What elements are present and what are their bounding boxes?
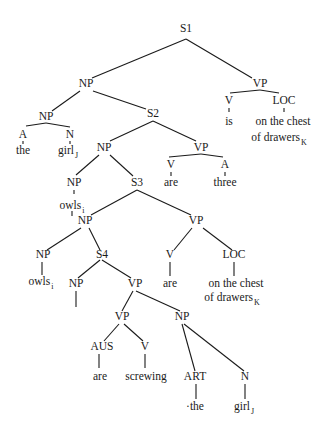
- tree-node-a2: A: [221, 158, 230, 170]
- edge-vp-loc: [260, 90, 279, 93]
- edge-vp2-v: [169, 154, 201, 157]
- tree-node-n1: N: [66, 128, 75, 140]
- tree-node-vp2: VP: [194, 141, 209, 153]
- tree-node-v2: V: [167, 158, 176, 170]
- tree-node-np5: NP: [78, 214, 93, 226]
- edge-s2-vp: [153, 121, 196, 141]
- tree-node-s4: S4: [96, 248, 108, 260]
- tree-node-loc1: LOC: [273, 94, 296, 106]
- tree-node-np2: NP: [39, 110, 54, 122]
- edge-vp-v-lo: [230, 90, 260, 93]
- tree-node-n2: N: [241, 370, 250, 382]
- tree-node-a2w: three: [214, 176, 237, 188]
- edge-vp5-aus: [104, 324, 119, 341]
- edge-np3-s3: [110, 155, 133, 176]
- tree-node-ausw: are: [93, 370, 107, 382]
- edge-vp4-np: [136, 291, 180, 311]
- edge-np2-n: [46, 123, 70, 127]
- syntax-tree-diagram: S1NPVPNPS2AtheNgirlJVisLOCon the chestof…: [0, 0, 334, 443]
- tree-node-loc2w1: on the chest: [209, 277, 265, 289]
- tree-node-vp4: VP: [128, 277, 143, 289]
- edge-s3-vp: [137, 190, 191, 215]
- edge-s4-vp: [102, 260, 131, 278]
- edge-np-np: [52, 91, 80, 111]
- tree-node-v4: V: [141, 340, 150, 352]
- tree-node-np8: NP: [175, 310, 190, 322]
- tree-node-np1: NP: [79, 77, 94, 89]
- tree-node-v4w: screwing: [125, 370, 167, 383]
- edge-vp3-v: [174, 228, 192, 250]
- tree-node-np6w: owlsi: [29, 275, 55, 291]
- tree-node-a1w: the: [16, 144, 30, 156]
- edge-s4-np: [78, 260, 100, 278]
- edge-np-s2: [93, 91, 146, 109]
- edge-s3-np: [91, 190, 137, 215]
- edge-s1-vp: [186, 39, 252, 78]
- tree-node-loc2w2: of drawersK: [204, 291, 260, 307]
- tree-node-n1w: girlJ: [58, 144, 78, 160]
- tree-node-np7: NP: [69, 277, 84, 289]
- tree-node-v3w: are: [163, 277, 177, 289]
- tree-node-v2w: are: [164, 176, 178, 188]
- tree-node-a1: A: [19, 128, 28, 140]
- tree-edges: [23, 39, 284, 399]
- edge-np2-a: [26, 123, 46, 126]
- edge-np3-np: [76, 155, 99, 175]
- tree-node-v1: V: [225, 94, 234, 106]
- tree-node-loc1w1: on the chest: [256, 115, 312, 127]
- edge-vp3-loc: [203, 228, 232, 250]
- tree-node-v3: V: [166, 248, 175, 260]
- tree-node-s2: S2: [147, 107, 159, 119]
- tree-node-artw: ·the: [186, 400, 204, 412]
- tree-node-art: ART: [184, 370, 206, 382]
- tree-node-v1w: is: [225, 115, 233, 127]
- tree-node-loc1w2: of drawersK: [251, 131, 307, 147]
- tree-node-s1: S1: [180, 22, 192, 34]
- tree-node-s3: S3: [131, 176, 143, 188]
- tree-node-loc2: LOC: [223, 248, 246, 260]
- edge-np5-np: [47, 228, 81, 250]
- tree-node-np4: NP: [67, 176, 82, 188]
- tree-nodes: S1NPVPNPS2AtheNgirlJVisLOCon the chestof…: [16, 22, 311, 416]
- edge-vp2-a: [201, 154, 223, 157]
- tree-node-np6: NP: [36, 248, 51, 260]
- edge-s1-np: [92, 39, 186, 78]
- edge-vp4-vp: [122, 291, 133, 311]
- tree-node-aus: AUS: [90, 340, 113, 352]
- tree-node-vp5: VP: [115, 310, 130, 322]
- tree-node-vp3: VP: [189, 214, 204, 226]
- edge-s2-np: [110, 121, 153, 141]
- edge-vp5-v: [124, 324, 143, 341]
- tree-node-n2w: girlJ: [234, 400, 254, 416]
- tree-node-vp1: VP: [253, 77, 268, 89]
- edge-np5-s4: [89, 228, 100, 250]
- tree-node-np3: NP: [97, 141, 112, 153]
